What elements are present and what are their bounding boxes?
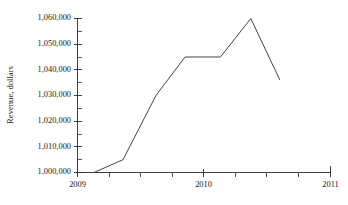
- x-label-2010: 2010: [195, 180, 212, 189]
- y-label-1040000: 1,040,000: [38, 65, 72, 74]
- y-label-1050000: 1,050,000: [38, 39, 72, 48]
- revenue-line-chart: 1,000,000 1,010,000 1,020,000 1,030,000 …: [0, 0, 348, 205]
- y-label-1020000: 1,020,000: [38, 116, 72, 125]
- x-label-2011: 2011: [322, 180, 338, 189]
- revenue-series-line: [94, 19, 280, 173]
- y-label-1060000: 1,060,000: [38, 13, 72, 22]
- y-label-1000000: 1,000,000: [38, 167, 72, 176]
- x-label-2009: 2009: [69, 180, 86, 189]
- y-axis-title: Revenue, dollars: [5, 65, 15, 123]
- y-tick-labels: 1,000,000 1,010,000 1,020,000 1,030,000 …: [38, 13, 72, 176]
- y-label-1030000: 1,030,000: [38, 90, 72, 99]
- y-label-1010000: 1,010,000: [38, 142, 72, 151]
- chart-canvas: 1,000,000 1,010,000 1,020,000 1,030,000 …: [0, 0, 348, 205]
- axes-group: [78, 18, 331, 173]
- x-tick-labels: 2009 2010 2011: [69, 180, 339, 189]
- series-group: [94, 19, 280, 173]
